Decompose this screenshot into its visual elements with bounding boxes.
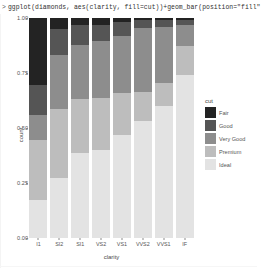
legend-color-swatch (205, 146, 216, 157)
x-tick: VS1 (112, 238, 133, 252)
bar-segment (113, 135, 131, 238)
x-tick-label: VS1 (117, 241, 127, 247)
x-tick: SI1 (70, 238, 91, 252)
x-tick: VS2 (91, 238, 112, 252)
bar-segment (71, 18, 89, 25)
bar-segment (50, 55, 68, 109)
table-row (134, 18, 152, 238)
bar-segment (29, 115, 47, 140)
x-tick-mark (101, 238, 102, 240)
table-row (29, 18, 47, 238)
bar-segment (176, 25, 194, 46)
table-row (113, 18, 131, 238)
bar-segment (176, 75, 194, 238)
x-tick-label: VVS2 (136, 241, 150, 247)
x-tick-mark (80, 238, 81, 240)
y-tick-label: 0.25 (6, 180, 28, 186)
bar-segment (71, 99, 89, 152)
bar-segment (155, 20, 173, 27)
legend-color-swatch (205, 120, 216, 131)
table-row (176, 18, 194, 238)
legend-item-label: Very Good (219, 136, 245, 142)
bar-segment (50, 178, 68, 238)
r-console-line: > ggplot(diamonds, aes(clarity, fill=cut… (0, 0, 257, 14)
legend-item-label: Ideal (219, 162, 231, 168)
bar-segment (50, 18, 68, 29)
x-tick-label: I1 (36, 241, 41, 247)
legend-item-label: Premium (219, 149, 241, 155)
table-row (71, 18, 89, 238)
x-tick-label: IF (182, 241, 187, 247)
legend-items: FairGoodVery GoodPremiumIdeal (205, 106, 255, 171)
bar-segment (113, 22, 131, 36)
legend-item: Ideal (205, 158, 255, 171)
bar-segment (92, 18, 110, 25)
x-tick: SI2 (49, 238, 70, 252)
bar-segment (50, 29, 68, 55)
x-tick-mark (59, 238, 60, 240)
x-axis-label: clarity (28, 254, 195, 260)
page-edge-left (0, 14, 1, 268)
bar-segment (134, 20, 152, 28)
bar-segment (29, 200, 47, 238)
bar-segment (92, 150, 110, 238)
x-tick-label: VVS1 (157, 241, 171, 247)
x-tick: VVS2 (132, 238, 153, 252)
legend-color-swatch (205, 159, 216, 170)
page-edge-bottom (0, 266, 257, 267)
x-tick-label: VS2 (96, 241, 106, 247)
bar-segment (134, 121, 152, 238)
bar-segment (176, 46, 194, 75)
x-tick-mark (121, 238, 122, 240)
x-tick: IF (174, 238, 195, 252)
x-tick-mark (38, 238, 39, 240)
console-command-text: ggplot(diamonds, aes(clarity, fill=cut))… (8, 4, 257, 11)
bar-segment (50, 109, 68, 178)
y-tick-label: 0.00 (6, 235, 28, 241)
bar-segment (113, 93, 131, 135)
bar-segment (134, 28, 152, 92)
bar-segment (92, 98, 110, 149)
x-tick: I1 (28, 238, 49, 252)
bar-segment (71, 45, 89, 99)
legend-item: Very Good (205, 132, 255, 145)
bar-segment (71, 153, 89, 238)
legend-color-swatch (205, 107, 216, 118)
bar-segment (155, 27, 173, 83)
x-tick-mark (184, 238, 185, 240)
ggplot-figure: count 1.000.750.500.250.00 I1SI2SI1VS2VS… (0, 14, 257, 268)
legend: cut FairGoodVery GoodPremiumIdeal (205, 98, 255, 171)
y-tick-label: 1.00 (6, 15, 28, 21)
y-axis-label: count (18, 115, 24, 155)
legend-item: Premium (205, 145, 255, 158)
legend-item: Good (205, 119, 255, 132)
x-axis: I1SI2SI1VS2VS1VVS2VVS1IF (28, 238, 195, 252)
legend-item-label: Good (219, 123, 233, 129)
table-row (50, 18, 68, 238)
bar-segment (92, 41, 110, 98)
table-row (155, 18, 173, 238)
bar-segment (29, 140, 47, 200)
x-tick-mark (163, 238, 164, 240)
bar-segment (155, 83, 173, 106)
console-prompt: > (2, 4, 6, 11)
bar-segment (155, 106, 173, 238)
bar-segment (29, 18, 47, 85)
bar-segment (71, 25, 89, 45)
y-tick-label: 0.50 (6, 125, 28, 131)
x-tick-label: SI1 (76, 241, 84, 247)
y-axis: count 1.000.750.500.250.00 (2, 14, 28, 268)
bar-segment (29, 85, 47, 115)
x-tick-label: SI2 (55, 241, 63, 247)
legend-color-swatch (205, 133, 216, 144)
bar-segment (92, 25, 110, 42)
bar-segment (113, 36, 131, 93)
plot-panel (28, 18, 195, 238)
y-tick-label: 0.75 (6, 70, 28, 76)
table-row (92, 18, 110, 238)
legend-title: cut (205, 98, 255, 104)
x-tick: VVS1 (153, 238, 174, 252)
legend-item-label: Fair (219, 110, 229, 116)
legend-item: Fair (205, 106, 255, 119)
stacked-bar-group (28, 18, 195, 238)
